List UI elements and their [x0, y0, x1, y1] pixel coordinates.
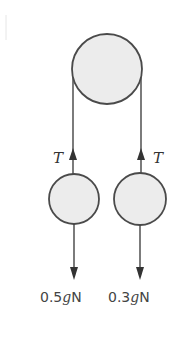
weight-right-g: g — [130, 289, 139, 305]
weight-arrow-left-icon — [70, 267, 78, 280]
mass-left — [49, 174, 99, 224]
pulley — [72, 34, 142, 104]
weight-label-right: 0.3gN — [108, 289, 150, 305]
weight-right-unit: N — [139, 289, 149, 305]
pulley-diagram: T T 0.5gN 0.3gN — [0, 0, 188, 337]
tension-arrow-left-icon — [69, 148, 77, 160]
tension-arrow-right-icon — [137, 148, 145, 160]
mass-right — [114, 173, 166, 225]
weight-right-num: 0.3 — [108, 289, 130, 305]
weight-left-unit: N — [71, 289, 81, 305]
weight-left-num: 0.5 — [40, 289, 62, 305]
weight-label-left: 0.5gN — [40, 289, 82, 305]
tension-label-right: T — [153, 149, 164, 167]
weight-left-g: g — [62, 289, 71, 305]
weight-arrow-right-icon — [136, 267, 144, 280]
tension-label-left: T — [53, 149, 64, 167]
